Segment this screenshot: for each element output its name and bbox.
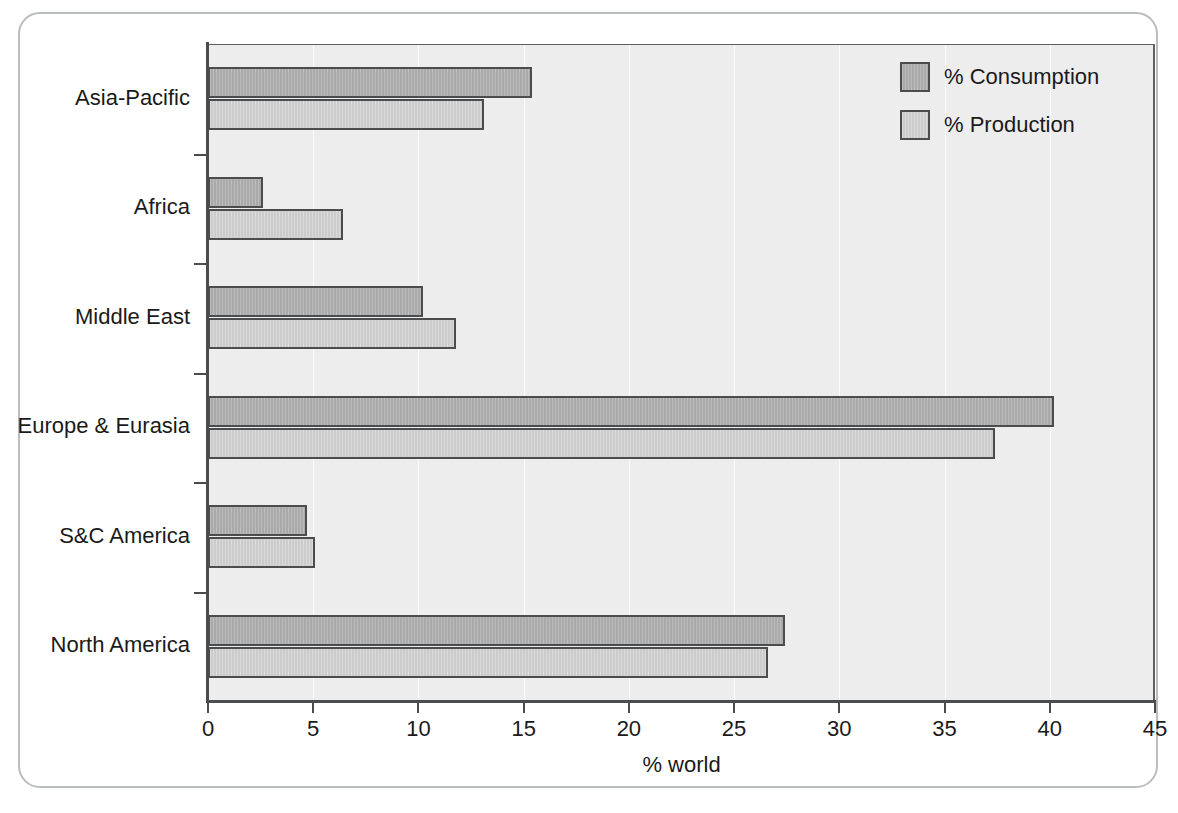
y-category-label: Europe & Eurasia [0, 413, 190, 439]
gridline [1155, 45, 1156, 700]
x-tick-label: 0 [168, 716, 248, 742]
x-tick-label: 35 [905, 716, 985, 742]
y-category-label: S&C America [0, 523, 190, 549]
y-tick [194, 482, 206, 484]
legend-label: % Consumption [944, 64, 1099, 90]
gridline [313, 45, 314, 700]
y-category-label: Africa [0, 194, 190, 220]
bar [208, 177, 263, 208]
y-tick [194, 592, 206, 594]
y-category-label: North America [0, 632, 190, 658]
x-tick-label: 25 [694, 716, 774, 742]
x-tick-label: 30 [799, 716, 879, 742]
chart-legend: % Consumption% Production [900, 62, 1099, 158]
bar [208, 286, 423, 317]
gridline [734, 45, 735, 700]
bar [208, 537, 315, 568]
x-tick [1154, 703, 1156, 713]
gridline [524, 45, 525, 700]
x-tick [207, 703, 209, 713]
y-category-label: Asia-Pacific [0, 85, 190, 111]
legend-item: % Consumption [900, 62, 1099, 92]
x-axis-line [206, 700, 1156, 703]
x-tick [944, 703, 946, 713]
x-tick [523, 703, 525, 713]
x-tick-label: 40 [1010, 716, 1090, 742]
x-tick [733, 703, 735, 713]
x-tick [417, 703, 419, 713]
y-tick [194, 154, 206, 156]
legend-swatch [900, 110, 930, 140]
gridline [629, 45, 630, 700]
bar [208, 99, 484, 130]
legend-item: % Production [900, 110, 1099, 140]
gridline [418, 45, 419, 700]
y-tick [194, 373, 206, 375]
gridline [839, 45, 840, 700]
y-category-label: Middle East [0, 304, 190, 330]
bar [208, 428, 995, 459]
x-tick [312, 703, 314, 713]
legend-label: % Production [944, 112, 1075, 138]
bar [208, 209, 343, 240]
y-axis-line [206, 42, 209, 703]
x-tick [1049, 703, 1051, 713]
bar [208, 396, 1054, 427]
x-tick-label: 20 [589, 716, 669, 742]
x-tick-label: 45 [1115, 716, 1178, 742]
bar [208, 505, 307, 536]
x-tick-label: 10 [378, 716, 458, 742]
y-tick [194, 263, 206, 265]
bar-chart: 051015202530354045 Asia-PacificAfricaMid… [0, 0, 1178, 813]
x-axis-title: % world [208, 752, 1155, 778]
bar [208, 67, 532, 98]
bar [208, 318, 456, 349]
bar [208, 615, 785, 646]
x-tick [628, 703, 630, 713]
x-tick [838, 703, 840, 713]
legend-swatch [900, 62, 930, 92]
x-tick-label: 15 [484, 716, 564, 742]
x-tick-label: 5 [273, 716, 353, 742]
bar [208, 647, 768, 678]
